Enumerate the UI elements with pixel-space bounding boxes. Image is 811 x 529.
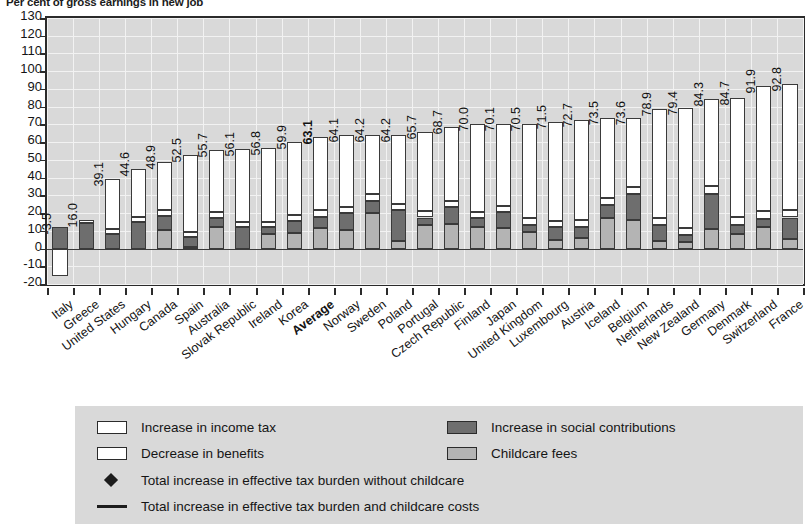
- bar-segment: [444, 127, 459, 201]
- bar-value-label: 44.6: [119, 153, 132, 177]
- bar-segment: [574, 120, 589, 221]
- legend-item[interactable]: Total increase in effective tax burden w…: [97, 469, 464, 491]
- bar-group[interactable]: 79.4: [678, 18, 693, 284]
- bar-value-label: 48.9: [145, 145, 158, 169]
- bar-value-label: 70.0: [458, 108, 471, 132]
- bar-value-label: 84.7: [718, 81, 731, 105]
- bar-segment: [730, 217, 745, 225]
- bar-group[interactable]: 70.0: [470, 18, 485, 284]
- bar-segment: [704, 229, 719, 249]
- bar-segment: [496, 206, 511, 212]
- bar-segment: [417, 225, 432, 248]
- y-axis-tick-mark: [40, 71, 47, 73]
- bar-value-label: 78.9: [640, 92, 653, 116]
- legend-item[interactable]: Decrease in benefits: [97, 442, 264, 464]
- bar-segment: [391, 135, 406, 205]
- bar-group[interactable]: 64.2: [391, 18, 406, 284]
- y-axis-tick-mark: [40, 107, 47, 109]
- legend-item[interactable]: Increase in income tax: [97, 416, 276, 438]
- bar-segment: [157, 230, 172, 249]
- bar-group[interactable]: 56.8: [261, 18, 276, 284]
- y-axis-tick-mark: [40, 249, 47, 251]
- bar-group[interactable]: 73.6: [626, 18, 641, 284]
- x-axis-category-labels: ItalyGreeceUnited StatesHungaryCanadaSpa…: [45, 294, 805, 389]
- bar-group[interactable]: 84.3: [704, 18, 719, 284]
- bar-segment: [652, 241, 667, 249]
- bar-segment: [157, 162, 172, 210]
- bar-value-label: 64.2: [353, 118, 366, 142]
- bar-group[interactable]: 78.9: [652, 18, 667, 284]
- bar-segment: [365, 213, 380, 248]
- page-title: Per cent of gross earnings in new job: [6, 0, 203, 8]
- bar-value-label: 72.7: [562, 103, 575, 127]
- bar-group[interactable]: 72.7: [574, 18, 589, 284]
- legend-label: Total increase in effective tax burden a…: [141, 499, 479, 514]
- bar-segment: [183, 247, 198, 249]
- legend-label: Increase in social contributions: [491, 420, 676, 435]
- bar-segment: [652, 225, 667, 240]
- bar-segment: [235, 222, 250, 227]
- bar-segment: [574, 238, 589, 249]
- gridline-vertical: [803, 18, 804, 284]
- y-axis-tick-label: 0: [0, 240, 42, 253]
- bar-segment: [157, 216, 172, 230]
- bar-segment: [600, 218, 615, 248]
- bar-group[interactable]: 68.7: [444, 18, 459, 284]
- legend-item[interactable]: Increase in social contributions: [447, 416, 676, 438]
- legend-label: Total increase in effective tax burden w…: [141, 473, 464, 488]
- bar-group[interactable]: 64.2: [365, 18, 380, 284]
- bar-value-label: 73.5: [588, 101, 601, 125]
- bar-segment: [235, 227, 250, 248]
- bar-group[interactable]: 92.8: [782, 18, 797, 284]
- bar-group[interactable]: 39.1: [105, 18, 120, 284]
- y-axis-tick-mark: [40, 18, 47, 20]
- y-axis-tick-mark: [40, 124, 47, 126]
- bar-value-label: 91.9: [744, 69, 757, 93]
- bar-segment: [782, 239, 797, 249]
- bar-segment: [183, 232, 198, 237]
- bar-segment: [600, 205, 615, 218]
- y-axis-tick-label: 20: [0, 204, 42, 217]
- bar-segment: [626, 194, 641, 220]
- bar-group[interactable]: 84.7: [730, 18, 745, 284]
- legend-item[interactable]: Childcare fees: [447, 442, 577, 464]
- y-axis-tick-label: 10: [0, 222, 42, 235]
- bar-segment: [678, 235, 693, 242]
- bar-segment: [339, 207, 354, 213]
- y-axis-tick-mark: [40, 284, 47, 286]
- bar-segment: [470, 212, 485, 218]
- bar-group[interactable]: 64.1: [339, 18, 354, 284]
- bar-group[interactable]: 16.0: [79, 18, 94, 284]
- bar-group[interactable]: 65.7: [417, 18, 432, 284]
- legend-item[interactable]: Total increase in effective tax burden a…: [97, 495, 479, 517]
- bar-group[interactable]: 59.9: [287, 18, 302, 284]
- bar-segment: [626, 187, 641, 194]
- y-axis-tick-mark: [40, 89, 47, 91]
- bar-group[interactable]: 71.5: [548, 18, 563, 284]
- bar-segment: [313, 228, 328, 248]
- bar-segment: [157, 210, 172, 216]
- bar-segment: [339, 230, 354, 249]
- bar-group[interactable]: 70.1: [496, 18, 511, 284]
- bar-value-label: 73.6: [614, 101, 627, 125]
- bar-segment: [626, 220, 641, 248]
- bar-group[interactable]: 70.5: [522, 18, 537, 284]
- bar-segment: [417, 218, 432, 226]
- bar-value-label: 59.9: [275, 125, 288, 149]
- bar-segment: [600, 198, 615, 205]
- bar-segment: [704, 186, 719, 194]
- bar-segment: [600, 118, 615, 198]
- y-axis-tick-mark: [40, 53, 47, 55]
- bar-segment: [496, 212, 511, 228]
- y-axis-tick-mark: [40, 266, 47, 268]
- bar-group[interactable]: -3.5: [52, 18, 67, 284]
- bar-group[interactable]: 91.9: [756, 18, 771, 284]
- bar-segment: [183, 237, 198, 247]
- bar-group[interactable]: 73.5: [600, 18, 615, 284]
- bar-segment: [548, 227, 563, 239]
- y-axis-tick-label: 110: [0, 44, 42, 57]
- y-axis-tick-mark: [40, 36, 47, 38]
- y-axis-tick-label: -10: [0, 257, 42, 270]
- bar-value-label: -3.5: [41, 213, 54, 235]
- bar-group[interactable]: 63.1: [313, 18, 328, 284]
